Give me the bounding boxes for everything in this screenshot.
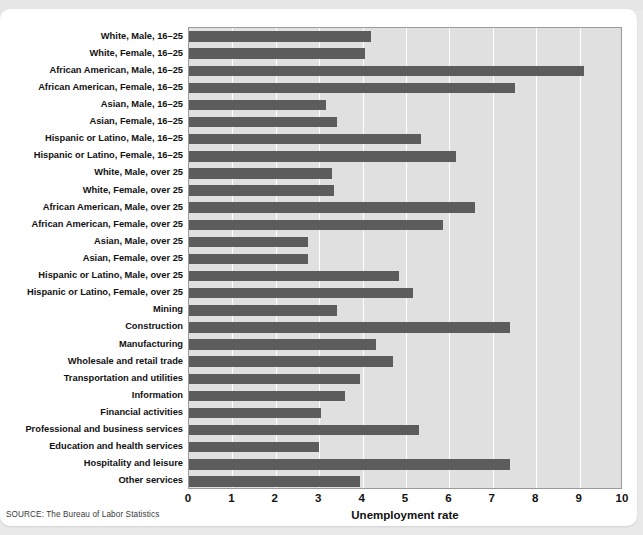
category-label: Hispanic or Latino, Female, over 25 [27, 287, 183, 297]
x-tick-label: 8 [532, 491, 538, 505]
bar [189, 322, 510, 333]
category-label: African American, Female, over 25 [31, 219, 183, 229]
bar [189, 476, 360, 487]
category-label: Asian, Female, over 25 [83, 253, 183, 263]
bar [189, 31, 371, 42]
category-label: White, Female, over 25 [83, 185, 183, 195]
x-axis-title: Unemployment rate [188, 509, 622, 521]
bar [189, 356, 393, 367]
bar [189, 185, 334, 196]
category-label: Asian, Male, over 25 [94, 236, 183, 246]
category-label: White, Female, 16–25 [89, 48, 183, 58]
x-tick-label: 10 [616, 491, 629, 505]
bar [189, 391, 345, 402]
x-tick-label: 5 [402, 491, 408, 505]
bar [189, 134, 421, 145]
category-label: African American, Female, 16–25 [38, 82, 183, 92]
bar [189, 254, 308, 265]
bar [189, 442, 319, 453]
bar [189, 288, 413, 299]
bar [189, 48, 365, 59]
x-tick-label: 9 [575, 491, 581, 505]
x-tick-label: 2 [272, 491, 278, 505]
bar [189, 459, 510, 470]
category-label: Construction [125, 321, 183, 331]
gridline [623, 28, 624, 488]
bar-chart: White, Male, 16–25White, Female, 16–25Af… [0, 9, 637, 526]
bar [189, 117, 337, 128]
category-label: Professional and business services [25, 424, 183, 434]
bar [189, 425, 419, 436]
x-axis-ticks: 012345678910 [188, 491, 622, 507]
category-label: Hispanic or Latino, Male, 16–25 [45, 133, 183, 143]
bar [189, 374, 360, 385]
bar [189, 100, 326, 111]
category-label: Financial activities [100, 407, 183, 417]
bar [189, 237, 308, 248]
bar [189, 305, 337, 316]
category-label: African American, Male, over 25 [43, 202, 183, 212]
category-label: Information [132, 390, 183, 400]
plot-area [188, 27, 622, 489]
category-label: Mining [153, 304, 183, 314]
bar [189, 151, 456, 162]
x-tick-label: 4 [358, 491, 364, 505]
category-label: Hospitality and leisure [84, 458, 183, 468]
bar [189, 66, 584, 77]
bar [189, 83, 515, 94]
category-label: Asian, Female, 16–25 [89, 116, 183, 126]
category-label: Hispanic or Latino, Female, 16–25 [34, 150, 183, 160]
bar [189, 271, 399, 282]
category-label: Asian, Male, 16–25 [101, 99, 183, 109]
bar [189, 220, 443, 231]
x-tick-label: 1 [228, 491, 234, 505]
category-label: White, Male, over 25 [94, 167, 183, 177]
category-label: Other services [118, 475, 183, 485]
category-label: Manufacturing [119, 339, 183, 349]
x-tick-label: 6 [445, 491, 451, 505]
bar [189, 168, 332, 179]
bar [189, 339, 376, 350]
category-label: White, Male, 16–25 [101, 31, 183, 41]
bar [189, 408, 321, 419]
x-tick-label: 0 [185, 491, 191, 505]
x-tick-label: 7 [489, 491, 495, 505]
category-label: Hispanic or Latino, Male, over 25 [38, 270, 183, 280]
figure-card: White, Male, 16–25White, Female, 16–25Af… [0, 9, 637, 526]
category-axis-labels: White, Male, 16–25White, Female, 16–25Af… [0, 27, 183, 489]
bar [189, 202, 475, 213]
x-tick-label: 3 [315, 491, 321, 505]
category-label: Wholesale and retail trade [68, 356, 183, 366]
category-label: Transportation and utilities [64, 373, 183, 383]
bar-series [189, 28, 621, 488]
category-label: Education and health services [49, 441, 183, 451]
source-note: SOURCE: The Bureau of Labor Statistics [6, 510, 159, 519]
category-label: African American, Male, 16–25 [50, 65, 184, 75]
